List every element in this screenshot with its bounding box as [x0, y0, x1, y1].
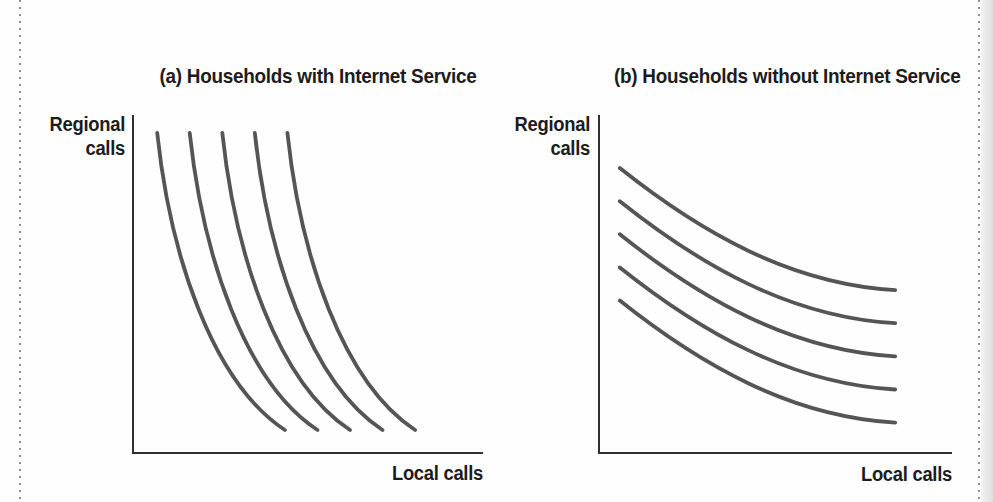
- panel-b-y-axis-label: Regional calls: [498, 112, 590, 160]
- panel-b-axes: [599, 115, 952, 453]
- panel-b-x-axis-label: Local calls: [814, 463, 952, 486]
- panel-a-y-axis-label: Regional calls: [33, 112, 125, 160]
- panel-b-indifference-curve-3: [620, 234, 895, 356]
- panel-a-title: (a) Households with Internet Service: [156, 64, 480, 88]
- panel-b-title: (b) Households without Internet Service: [614, 64, 938, 88]
- panel-a-axes: [133, 115, 483, 453]
- textbook-figure: (a) Households with Internet Service Reg…: [0, 0, 993, 502]
- panel-b-indifference-curve-1: [620, 168, 895, 290]
- panel-a-x-axis-label: Local calls: [345, 462, 483, 485]
- panel-b-indifference-curve-2: [620, 201, 895, 323]
